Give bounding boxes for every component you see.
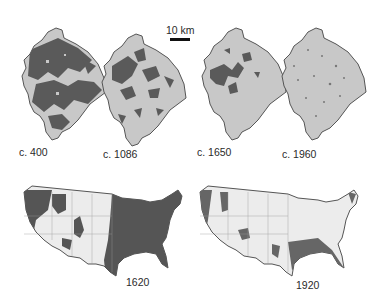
local-map-label: c. 1086 <box>103 148 137 160</box>
local-map-c1086 <box>98 26 190 148</box>
local-map-c400 <box>18 20 110 142</box>
us-map-label: 1920 <box>296 279 319 291</box>
us-map-1620 <box>22 180 187 280</box>
local-map-label: c. 1960 <box>282 148 316 160</box>
us-map-1920 <box>198 180 363 280</box>
us-map-label: 1620 <box>126 276 149 288</box>
local-map-label: c. 1650 <box>197 146 231 158</box>
local-map-c1650 <box>198 20 290 142</box>
local-map-c1960 <box>278 20 370 142</box>
local-map-label: c. 400 <box>19 146 48 158</box>
